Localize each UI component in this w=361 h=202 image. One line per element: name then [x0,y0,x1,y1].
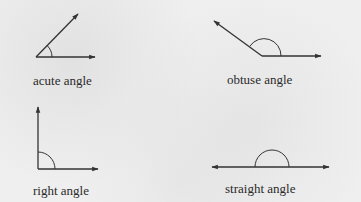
straight-angle-arc [255,150,289,167]
obtuse-upper-ray [214,21,262,56]
right-angle-figure [38,107,98,169]
right-angle-arc [38,152,55,169]
angle-types-diagram [0,0,361,202]
acute-upper-ray [36,14,78,57]
acute-angle-label: acute angle [33,74,92,87]
acute-angle-figure [36,14,95,57]
straight-angle-figure [212,150,329,167]
obtuse-angle-arc [250,39,281,56]
obtuse-angle-label: obtuse angle [227,73,292,86]
obtuse-angle-figure [214,21,321,56]
acute-angle-arc [47,46,52,57]
straight-angle-label: straight angle [225,182,295,195]
right-angle-label: right angle [33,184,89,197]
